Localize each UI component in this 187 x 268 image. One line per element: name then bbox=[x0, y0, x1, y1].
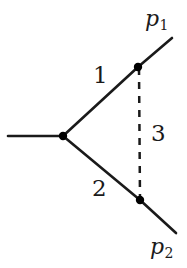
propagator-label-3: 3 bbox=[151, 122, 166, 145]
momentum-label-p1-base: p bbox=[145, 6, 159, 31]
momentum-label-p1-subscript: 1 bbox=[160, 17, 169, 33]
propagator-label-2: 2 bbox=[92, 177, 107, 200]
upper-vertex bbox=[134, 63, 142, 71]
feynman-diagram-canvas: 1 2 3 p1 p2 bbox=[0, 0, 187, 268]
propagator-label-1: 1 bbox=[93, 64, 108, 87]
center-vertex bbox=[59, 132, 67, 140]
outgoing-line-p1 bbox=[138, 38, 172, 67]
propagator-line-3 bbox=[139, 68, 140, 199]
momentum-label-p2-base: p bbox=[150, 234, 164, 259]
momentum-label-p2: p2 bbox=[150, 236, 174, 260]
momentum-label-p2-subscript: 2 bbox=[165, 245, 174, 261]
outgoing-line-p2 bbox=[140, 200, 176, 233]
lower-vertex bbox=[136, 196, 144, 204]
momentum-label-p1: p1 bbox=[145, 8, 169, 32]
